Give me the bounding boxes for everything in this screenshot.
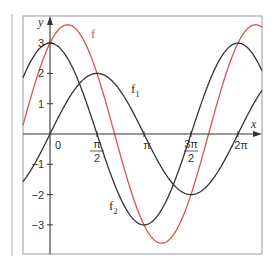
y-tick-label: −3	[31, 219, 44, 231]
y-axis-arrow-icon	[47, 16, 53, 25]
series-label-f2: f2	[109, 198, 118, 216]
x-tick-label: 0	[55, 139, 61, 151]
y-tick-label: 1	[38, 98, 44, 110]
x-tick-label: 2π	[234, 139, 248, 151]
y-tick-label: −1	[31, 158, 44, 170]
y-tick-label: 2	[38, 67, 44, 79]
y-tick-label: −2	[31, 189, 44, 201]
plot-frame	[23, 16, 262, 254]
x-axis-label: x	[250, 117, 257, 131]
x-tick-label-denominator: 2	[94, 152, 100, 164]
series-label-f1: f1	[131, 81, 140, 99]
x-axis-arrow-icon	[253, 131, 262, 137]
x-tick-label-denominator: 2	[188, 152, 194, 164]
x-tick-label-numerator: 3π	[184, 138, 198, 150]
x-tick-label: π	[143, 139, 151, 151]
x-tick-label-numerator: π	[93, 138, 101, 150]
y-tick-label: 3	[38, 37, 44, 49]
y-axis-label: y	[37, 15, 44, 29]
series-label-f: f	[91, 26, 96, 41]
sine-superposition-chart: 321−1−2−30π2π3π22π x y ff1f2	[0, 0, 276, 267]
